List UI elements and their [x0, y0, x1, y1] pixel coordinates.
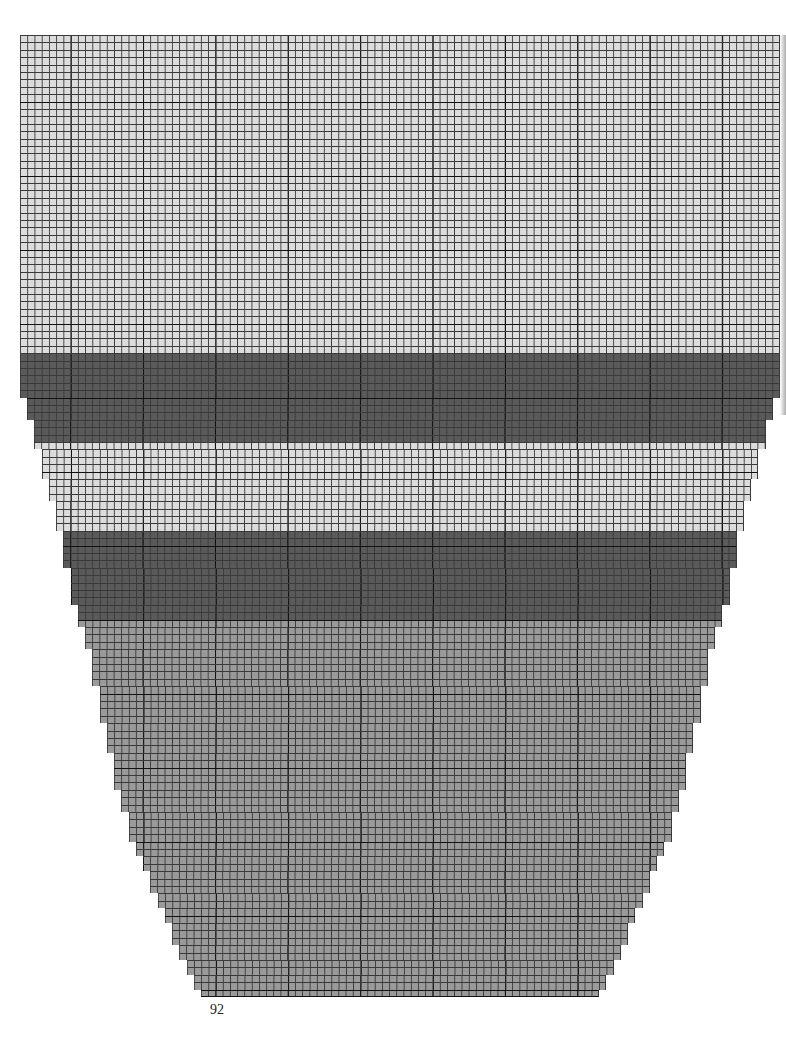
chart-row: [150, 879, 650, 886]
chart-row: [20, 146, 780, 153]
chart-row: [121, 797, 678, 804]
chart-row: [179, 953, 621, 960]
chart-row: [20, 257, 780, 264]
chart-row: [85, 634, 715, 641]
chart-row: [107, 731, 693, 738]
chart-row: [20, 368, 780, 375]
chart-row: [78, 612, 722, 619]
chart-row: [114, 775, 686, 782]
chart-row: [20, 161, 780, 168]
chart-row: [63, 553, 736, 560]
chart-row: [172, 938, 628, 945]
chart-row: [20, 65, 780, 72]
chart-row: [20, 390, 780, 397]
chart-row: [136, 849, 665, 856]
chart-row: [20, 124, 780, 131]
chart-row: [92, 657, 707, 664]
chart-row: [20, 272, 780, 279]
chart-row: [143, 864, 657, 871]
chart-row: [129, 819, 672, 826]
chart-row: [100, 694, 701, 701]
chart-row: [20, 346, 780, 353]
chart-row: [150, 871, 650, 878]
chart-row: [20, 250, 780, 257]
chart-row: [158, 901, 643, 908]
page-edge-shadow: [780, 35, 786, 415]
chart-row: [20, 153, 780, 160]
chart-row: [20, 375, 780, 382]
chart-row: [63, 560, 736, 567]
chart-row: [194, 982, 607, 989]
chart-row: [56, 516, 744, 523]
chart-row: [85, 627, 715, 634]
chart-row: [20, 331, 780, 338]
chart-row: [201, 990, 599, 997]
chart-row: [34, 420, 765, 427]
chart-row: [129, 827, 672, 834]
chart-row: [85, 642, 715, 649]
chart-row: [49, 479, 751, 486]
chart-row: [56, 509, 744, 516]
chart-row: [107, 745, 693, 752]
chart-row: [20, 324, 780, 331]
chart-row: [27, 405, 773, 412]
chart-row: [63, 531, 736, 538]
chart-row: [179, 945, 621, 952]
chart-row: [20, 131, 780, 138]
chart-row: [114, 768, 686, 775]
chart-row: [136, 842, 665, 849]
chart-row: [71, 590, 730, 597]
chart-row: [114, 782, 686, 789]
chart-row: [129, 812, 672, 819]
chart-row: [63, 538, 736, 545]
chart-row: [187, 960, 614, 967]
chart-row: [42, 472, 759, 479]
chart-row: [20, 190, 780, 197]
chart-row: [194, 975, 607, 982]
chart-row: [100, 686, 701, 693]
chart-row: [34, 427, 765, 434]
chart-row: [158, 893, 643, 900]
chart-row: [20, 94, 780, 101]
chart-row: [114, 760, 686, 767]
chart-row: [121, 790, 678, 797]
chart-row: [172, 923, 628, 930]
chart-row: [20, 176, 780, 183]
chart-row: [129, 834, 672, 841]
chart-row: [20, 198, 780, 205]
chart-row: [150, 886, 650, 893]
chart-row: [71, 583, 730, 590]
chart-row: [27, 412, 773, 419]
chart-row: [42, 449, 759, 456]
chart-row: [56, 501, 744, 508]
chart-row: [20, 220, 780, 227]
chart-row: [100, 716, 701, 723]
chart-row: [78, 605, 722, 612]
chart-row: [49, 486, 751, 493]
chart-row: [42, 457, 759, 464]
chart-row: [107, 723, 693, 730]
chart-row: [34, 435, 765, 442]
chart-row: [20, 139, 780, 146]
chart-row: [20, 183, 780, 190]
chart-row: [20, 301, 780, 308]
chart-row: [121, 805, 678, 812]
chart-row: [20, 316, 780, 323]
chart-row: [71, 575, 730, 582]
chart-row: [63, 546, 736, 553]
chart-row: [92, 649, 707, 656]
chart-row: [20, 50, 780, 57]
chart-row: [20, 79, 780, 86]
chart-row: [56, 523, 744, 530]
chart-row: [20, 205, 780, 212]
chart-row: [172, 930, 628, 937]
chart-row: [27, 398, 773, 405]
chart-row: [20, 102, 780, 109]
chart-row: [20, 309, 780, 316]
chart-row: [20, 116, 780, 123]
chart-row: [20, 35, 780, 42]
chart-row: [20, 227, 780, 234]
chart-row: [114, 753, 686, 760]
chart-row: [20, 361, 780, 368]
chart-row: [92, 671, 707, 678]
